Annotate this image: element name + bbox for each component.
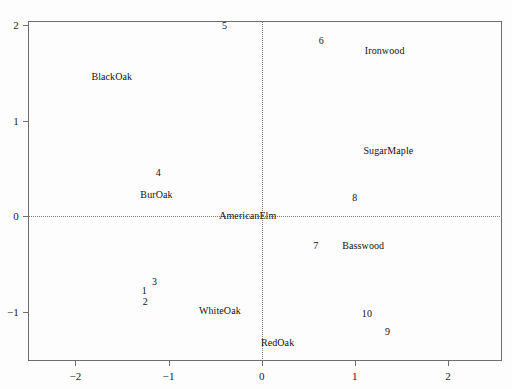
x-axis-tick-label: 1: [352, 370, 358, 382]
variable-label-ironwood: Ironwood: [365, 44, 405, 55]
variable-label-blackoak: BlackOak: [91, 70, 132, 81]
observation-label-3: 3: [152, 275, 157, 286]
y-axis-tick: [23, 121, 28, 122]
variable-label-americanelm: AmericanElm: [219, 210, 276, 221]
y-axis-tick: [23, 25, 28, 26]
observation-label-10: 10: [362, 308, 372, 319]
variable-label-basswood: Basswood: [342, 240, 384, 251]
biplot-figure: −2−1012−101212345678910BlackOakBurOakWhi…: [0, 0, 512, 389]
x-axis-tick: [169, 361, 170, 366]
x-axis-tick: [355, 361, 356, 366]
y-axis-tick: [23, 312, 28, 313]
y-axis-tick: [23, 216, 28, 217]
observation-label-7: 7: [313, 240, 318, 251]
x-axis-tick-label: 0: [259, 370, 265, 382]
x-axis-tick-label: 2: [445, 370, 451, 382]
observation-label-2: 2: [143, 295, 148, 306]
observation-label-9: 9: [385, 326, 390, 337]
observation-label-8: 8: [352, 192, 357, 203]
x-axis-tick: [448, 361, 449, 366]
y-axis-tick-label: 1: [0, 115, 19, 127]
y-axis-tick-label: 0: [0, 210, 19, 222]
observation-label-6: 6: [319, 35, 324, 46]
variable-label-redoak: RedOak: [261, 336, 294, 347]
reference-line-vertical: [262, 21, 263, 361]
observation-label-5: 5: [222, 19, 227, 30]
variable-label-sugarmaple: SugarMaple: [363, 145, 413, 156]
y-axis-tick-label: 2: [0, 19, 19, 31]
x-axis-tick-label: −1: [163, 370, 175, 382]
observation-label-4: 4: [156, 167, 161, 178]
x-axis-tick-label: −2: [69, 370, 81, 382]
x-axis-tick: [262, 361, 263, 366]
y-axis-tick-label: −1: [0, 306, 19, 318]
observation-label-1: 1: [142, 285, 147, 296]
variable-label-buroak: BurOak: [140, 189, 172, 200]
variable-label-whiteoak: WhiteOak: [199, 305, 241, 316]
x-axis-tick: [75, 361, 76, 366]
